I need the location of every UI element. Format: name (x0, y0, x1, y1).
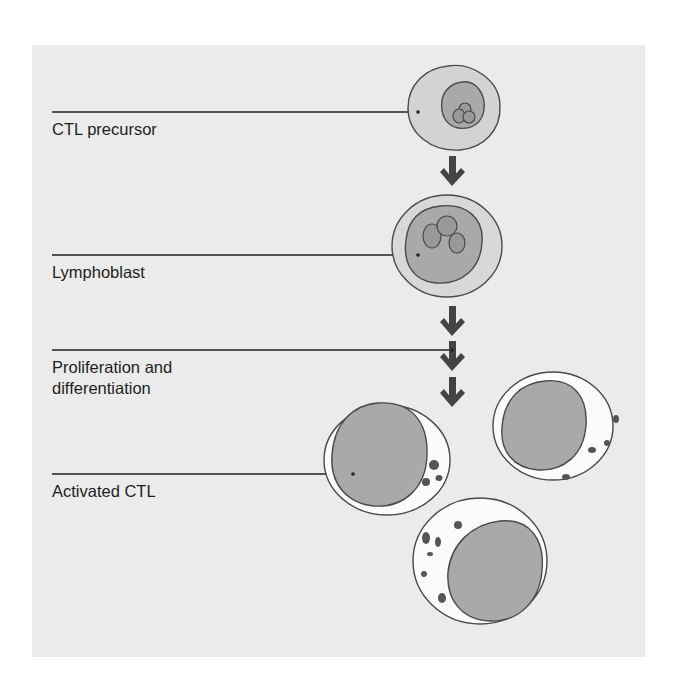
granule (562, 474, 570, 480)
leader-dot (416, 253, 420, 257)
arrow-down-icon (440, 377, 465, 407)
activated-ctl-cell (413, 498, 547, 624)
ctl-precursor-cell (408, 65, 500, 150)
activated-ctl-cell (493, 372, 619, 480)
activated-nucleus (332, 403, 427, 506)
granule (604, 440, 610, 446)
activated-nucleus (502, 381, 586, 470)
leader-dot (450, 348, 454, 352)
label-ctl-precursor: CTL precursor (52, 119, 157, 139)
lymphoblast-nucleolus (437, 216, 457, 236)
granule (438, 593, 446, 603)
granule (422, 478, 430, 486)
granule (421, 571, 427, 577)
label-lymphoblast: Lymphoblast (52, 262, 145, 282)
arrow-down-icon (440, 156, 465, 186)
granule (454, 521, 462, 529)
granule (429, 460, 439, 470)
leader-dot (351, 472, 355, 476)
leader-dot (416, 110, 420, 114)
arrow-down-icon (440, 306, 465, 336)
arrow-down-icon (440, 341, 465, 371)
activated-ctl-cell (324, 403, 450, 515)
label-proliferation-line2: differentiation (52, 378, 151, 398)
ctl-differentiation-diagram (0, 0, 676, 693)
granule (613, 415, 619, 423)
granule (436, 475, 443, 481)
precursor-nucleolus (463, 111, 475, 123)
label-proliferation-line1: Proliferation and (52, 357, 172, 377)
label-activated-ctl: Activated CTL (52, 481, 156, 501)
granule (435, 537, 441, 547)
granule (422, 532, 430, 544)
granule (427, 552, 433, 556)
lymphoblast-nucleolus (449, 233, 465, 253)
granule (588, 447, 596, 453)
lymphoblast-cell (392, 195, 502, 297)
